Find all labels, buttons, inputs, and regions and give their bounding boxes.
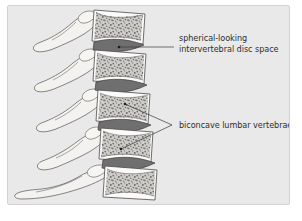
posterior-element-2 (34, 49, 100, 92)
posterior-element-4 (37, 127, 106, 170)
posterior-element-5 (15, 165, 108, 199)
vertebral-body-1 (92, 10, 145, 44)
label-disc-space-line2: intervertebral disc space (179, 44, 279, 54)
annotation-labels-group: spherical-looking intervertebral disc sp… (179, 33, 289, 130)
vertebral-body-2 (93, 50, 146, 84)
leader-dot-biconcave-lower (120, 148, 123, 151)
leader-dot-biconcave-upper (124, 103, 127, 106)
vertebral-body-5 (103, 166, 157, 200)
label-biconcave-vertebrae: biconcave lumbar vertebrae (179, 120, 289, 130)
illustration-panel: spherical-looking intervertebral disc sp… (7, 5, 290, 205)
label-disc-space-line1: spherical-looking (179, 33, 247, 43)
figure-root: spherical-looking intervertebral disc sp… (0, 0, 302, 221)
leader-dot-disc-space (118, 46, 121, 49)
posterior-element-1 (33, 11, 98, 52)
spine-illustration-svg: spherical-looking intervertebral disc sp… (8, 6, 289, 204)
posterior-element-3 (36, 89, 103, 132)
